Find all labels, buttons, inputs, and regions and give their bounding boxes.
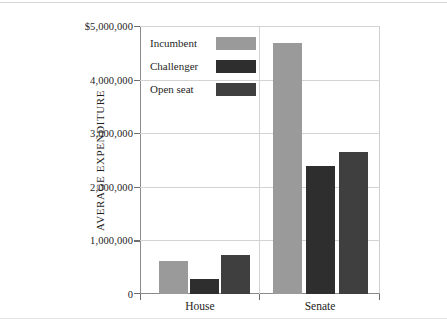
- y-tick-mark: [134, 240, 140, 241]
- x-tick-label-senate: Senate: [305, 300, 336, 312]
- bar-house-incumbent: [159, 261, 188, 294]
- x-tick-mark: [259, 294, 260, 300]
- bar-senate-open-seat: [339, 152, 368, 294]
- bar-senate-incumbent: [273, 43, 302, 294]
- plot-area: Incumbent Challenger Open seat: [140, 26, 380, 294]
- y-tick-label: 0: [128, 289, 133, 300]
- bar-house-challenger: [190, 279, 219, 294]
- x-tick-mark: [379, 294, 380, 300]
- y-tick-label: $5,000,000: [85, 21, 133, 32]
- legend-swatch-challenger: [216, 60, 256, 73]
- gridline-3000000: [140, 133, 380, 134]
- chart-legend: Incumbent Challenger Open seat: [150, 35, 256, 97]
- gridline-5000000: [140, 26, 380, 27]
- bar-house-open-seat: [221, 255, 250, 294]
- legend-entry-open-seat: Open seat: [150, 81, 256, 97]
- legend-label: Open seat: [150, 83, 216, 95]
- y-tick-mark: [134, 133, 140, 134]
- legend-swatch-incumbent: [216, 37, 256, 50]
- y-tick-label: 4,000,000: [90, 74, 133, 85]
- y-axis-tick-labels: $5,000,000 4,000,000 3,000,000 2,000,000…: [0, 0, 133, 329]
- y-tick-label: 3,000,000: [90, 128, 133, 139]
- y-tick-label: 1,000,000: [90, 235, 133, 246]
- legend-swatch-open-seat: [216, 83, 256, 96]
- bar-senate-challenger: [306, 166, 335, 294]
- legend-label: Challenger: [150, 60, 216, 72]
- y-tick-mark: [134, 80, 140, 81]
- y-tick-mark: [134, 26, 140, 27]
- x-tick-label-house: House: [185, 300, 214, 312]
- x-tick-mark: [140, 294, 141, 300]
- y-tick-label: 2,000,000: [90, 181, 133, 192]
- legend-label: Incumbent: [150, 37, 216, 49]
- chart-figure: AVERAGE EXPENDITURE $5,000,000 4,000,000…: [0, 0, 447, 329]
- legend-entry-incumbent: Incumbent: [150, 35, 256, 51]
- y-tick-mark: [134, 187, 140, 188]
- group-divider: [259, 26, 260, 294]
- legend-entry-challenger: Challenger: [150, 58, 256, 74]
